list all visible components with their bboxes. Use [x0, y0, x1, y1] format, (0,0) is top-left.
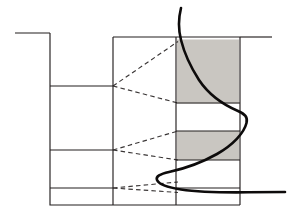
shaded-band-upper [177, 40, 239, 104]
correlation-line-6 [113, 188, 178, 193]
middle-column-group [113, 37, 176, 205]
left-column-group [15, 33, 113, 205]
left-column-outline [50, 33, 113, 205]
correlation-line-2 [113, 86, 178, 103]
correlation-line-1 [113, 42, 178, 87]
correlation-lines-group [113, 42, 178, 193]
correlation-line-4 [113, 150, 178, 160]
stratigraphic-correlation-figure [0, 0, 290, 213]
correlation-line-3 [113, 131, 178, 150]
figure-canvas [0, 0, 290, 213]
